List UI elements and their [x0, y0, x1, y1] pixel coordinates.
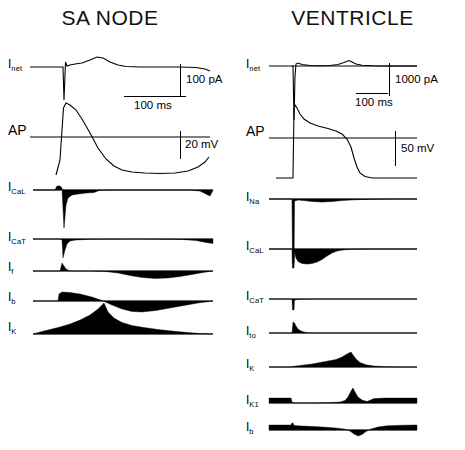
trace-icat-v: [269, 299, 417, 310]
trace-icat-sa: [33, 239, 213, 258]
scalebar-voltage-label-v: 50 mV: [401, 142, 434, 154]
trace-inet-sa: [30, 57, 210, 100]
scalebar-voltage-label-sa: 20 mV: [185, 138, 218, 150]
trace-ito-v: [269, 322, 417, 333]
scalebar-current-label-v: 1000 pA: [395, 73, 438, 85]
sa-node-traces: [0, 0, 232, 450]
electrophysiology-figure: SA NODE Inet AP ICaL ICaT If Ib IK: [0, 0, 465, 450]
trace-ical-v: [269, 249, 417, 268]
trace-ik-v: [269, 352, 417, 367]
trace-ib-sa: [33, 292, 213, 312]
trace-inet-v: [292, 61, 417, 121]
trace-ina-v: [269, 199, 417, 263]
panel-sa-node: SA NODE Inet AP ICaL ICaT If Ib IK: [0, 0, 232, 450]
scalebar-time-label-v: 100 ms: [355, 96, 393, 108]
ventricle-traces: [232, 0, 465, 450]
scalebar-time-label-sa: 100 ms: [134, 99, 172, 111]
panel-ventricle: VENTRICLE Inet AP INa ICaL ICaT Ito IK I…: [232, 0, 465, 450]
scalebar-current-label-sa: 100 pA: [186, 73, 222, 85]
trace-ical-sa: [33, 186, 213, 228]
trace-ib-v: [269, 423, 417, 436]
trace-ik1-v: [269, 388, 417, 403]
